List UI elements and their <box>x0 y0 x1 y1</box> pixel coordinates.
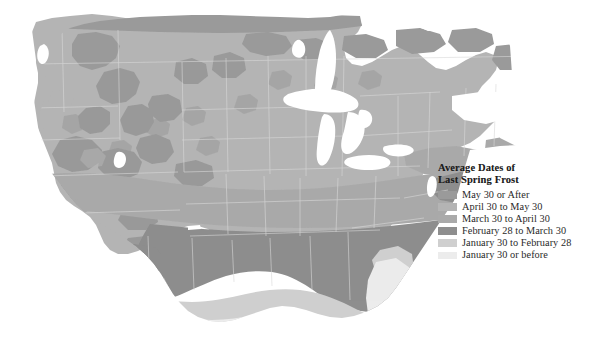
legend-swatch-feb28-to-mar30 <box>438 227 457 235</box>
legend-item-jan30-or-before: January 30 or before <box>438 249 598 261</box>
map-legend: Average Dates of Last Spring Frost May 3… <box>438 162 598 261</box>
legend-swatch-apr30-to-may30 <box>438 203 457 211</box>
legend-item-apr30-to-may30: April 30 to May 30 <box>438 201 598 213</box>
legend-label-apr30-to-may30: April 30 to May 30 <box>462 201 542 213</box>
legend-item-mar30-to-apr30: March 30 to April 30 <box>438 213 598 225</box>
legend-title: Average Dates of Last Spring Frost <box>438 162 598 187</box>
legend-label-jan30-to-feb28: January 30 to February 28 <box>462 237 571 249</box>
frost-date-map-figure: Average Dates of Last Spring Frost May 3… <box>0 0 603 346</box>
legend-label-jan30-or-before: January 30 or before <box>462 249 548 261</box>
legend-swatch-jan30-or-before <box>438 252 457 260</box>
legend-item-may30-or-after: May 30 or After <box>438 189 598 201</box>
legend-label-feb28-to-mar30: February 28 to March 30 <box>462 225 566 237</box>
legend-swatch-mar30-to-apr30 <box>438 215 457 223</box>
legend-label-may30-or-after: May 30 or After <box>462 189 529 201</box>
legend-label-mar30-to-apr30: March 30 to April 30 <box>462 213 550 225</box>
legend-swatch-jan30-to-feb28 <box>438 239 457 247</box>
legend-item-jan30-to-feb28: January 30 to February 28 <box>438 237 598 249</box>
legend-item-feb28-to-mar30: February 28 to March 30 <box>438 225 598 237</box>
legend-swatch-may30-or-after <box>438 191 457 199</box>
